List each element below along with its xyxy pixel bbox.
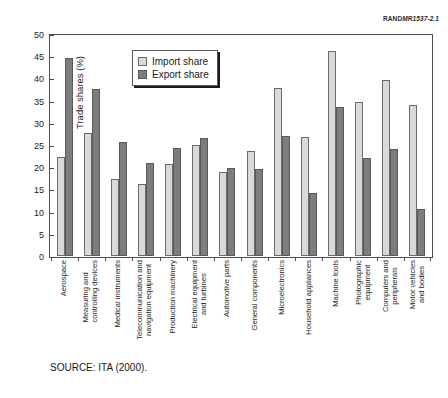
x-axis-label-slot: General components xyxy=(241,260,268,360)
x-axis-label-line: and turbines xyxy=(200,260,209,328)
bar[interactable] xyxy=(255,169,263,256)
legend-item[interactable]: Import share xyxy=(138,55,209,68)
figure-number: RANDMR1537-2.1 xyxy=(383,15,439,22)
bar-group xyxy=(214,36,241,256)
source-note: SOURCE: ITA (2000). xyxy=(50,362,147,373)
x-axis-label-line: Aerospace xyxy=(58,260,67,296)
bar[interactable] xyxy=(328,51,336,256)
bar[interactable] xyxy=(192,145,200,256)
x-axis-label: Household appliances xyxy=(305,260,314,335)
legend-item[interactable]: Export share xyxy=(138,68,209,81)
legend-swatch-import xyxy=(138,57,147,66)
y-axis-tick-label: 25 xyxy=(24,142,44,150)
bar[interactable] xyxy=(301,137,309,256)
bar-group xyxy=(377,36,404,256)
bar[interactable] xyxy=(173,148,181,256)
bar[interactable] xyxy=(119,142,127,256)
x-axis-label: Photographicequipment xyxy=(355,260,372,305)
x-axis-label: Aerospace xyxy=(59,260,68,296)
bar[interactable] xyxy=(355,102,363,256)
bar[interactable] xyxy=(165,164,173,256)
bar[interactable] xyxy=(247,151,255,256)
y-axis-tick-label: 20 xyxy=(24,164,44,172)
y-axis-tick-label: 30 xyxy=(24,120,44,128)
bar[interactable] xyxy=(219,172,227,256)
x-axis-label-line: Machine tools xyxy=(331,260,340,307)
x-axis-label-slot: Machine tools xyxy=(323,260,350,360)
bar[interactable] xyxy=(65,58,73,256)
x-axis-label-slot: Automotive parts xyxy=(214,260,241,360)
bar-series-container xyxy=(51,36,431,256)
plot-area: Trade shares (%) 05101520253035404550 xyxy=(49,34,433,258)
bar[interactable] xyxy=(390,149,398,256)
x-axis-label-line: Household appliances xyxy=(304,260,313,335)
legend-label: Import share xyxy=(152,56,208,67)
x-axis-label-line: Electrical equipment xyxy=(190,260,199,328)
x-axis-label-line: Production machinery xyxy=(167,260,176,333)
x-axis-label-line: peripherals xyxy=(391,260,400,312)
y-axis-tick-label: 15 xyxy=(24,186,44,194)
x-axis-label-slot: Telecommunication andnavigation equipmen… xyxy=(132,260,159,360)
bar[interactable] xyxy=(336,107,344,256)
x-axis-label-slot: Motor vehiclesand bodies xyxy=(405,260,432,360)
x-axis-label: Microelectronics xyxy=(278,260,287,315)
y-axis-tick-label: 50 xyxy=(24,31,44,39)
x-axis-label-line: Computers and xyxy=(381,260,390,312)
x-axis-label: General components xyxy=(250,260,259,331)
bar[interactable] xyxy=(309,193,317,256)
bar[interactable] xyxy=(57,157,65,256)
bar[interactable] xyxy=(409,105,417,256)
x-axis-label-line: Photographic xyxy=(354,260,363,305)
y-axis-tick-label: 35 xyxy=(24,98,44,106)
bar[interactable] xyxy=(417,209,425,256)
x-axis-label: Computers andperipherals xyxy=(382,260,399,312)
bar-group xyxy=(78,36,105,256)
bar-group xyxy=(268,36,295,256)
x-axis-label: Motor vehiclesand bodies xyxy=(410,260,427,309)
figure-number-brand: RAND xyxy=(383,15,402,22)
legend-label: Export share xyxy=(152,69,209,80)
x-axis-label-line: navigation equipment xyxy=(145,260,154,340)
bar[interactable] xyxy=(363,158,371,256)
bar[interactable] xyxy=(146,163,154,256)
bar[interactable] xyxy=(274,88,282,256)
x-axis-label-line: and bodies xyxy=(418,260,427,309)
x-axis-label: Automotive parts xyxy=(223,260,232,317)
y-axis-tick-label: 10 xyxy=(24,209,44,217)
y-axis-tick-label: 0 xyxy=(24,253,44,261)
x-axis-label: Measuring andcontrolling devices xyxy=(82,260,99,322)
x-axis-label-slot: Photographicequipment xyxy=(350,260,377,360)
y-axis-tick-label: 5 xyxy=(24,231,44,239)
x-axis-label-slot: Medical instruments xyxy=(105,260,132,360)
bar-group xyxy=(295,36,322,256)
bar[interactable] xyxy=(200,138,208,256)
x-axis-label-slot: Measuring andcontrolling devices xyxy=(77,260,104,360)
x-axis-label-line: Medical instruments xyxy=(113,260,122,328)
x-axis-label-slot: Household appliances xyxy=(296,260,323,360)
bar[interactable] xyxy=(382,80,390,256)
x-axis-label-slot: Electrical equipmentand turbines xyxy=(186,260,213,360)
bar[interactable] xyxy=(227,168,235,256)
chart-legend: Import shareExport share xyxy=(132,50,218,86)
bar-group xyxy=(404,36,431,256)
x-axis-label-line: controlling devices xyxy=(91,260,100,322)
bar-group xyxy=(105,36,132,256)
bar[interactable] xyxy=(111,179,119,256)
figure-number-code: MR1537-2.1 xyxy=(402,15,439,22)
bar[interactable] xyxy=(84,133,92,256)
bar[interactable] xyxy=(92,89,100,256)
figure-container: RANDMR1537-2.1 Trade shares (%) 05101520… xyxy=(0,0,448,398)
x-axis-label-slot: Computers andperipherals xyxy=(377,260,404,360)
x-axis-label-line: equipment xyxy=(364,260,373,305)
x-axis-label-slot: Production machinery xyxy=(159,260,186,360)
x-axis-label-line: Motor vehicles xyxy=(409,260,418,309)
bar[interactable] xyxy=(282,136,290,256)
x-axis-labels: AerospaceMeasuring andcontrolling device… xyxy=(50,260,432,360)
x-axis-label: Telecommunication andnavigation equipmen… xyxy=(137,260,154,340)
x-axis-label: Electrical equipmentand turbines xyxy=(191,260,208,328)
bar-group xyxy=(51,36,78,256)
x-axis-label-line: General components xyxy=(249,260,258,331)
x-axis-label-slot: Aerospace xyxy=(50,260,77,360)
bar[interactable] xyxy=(138,184,146,256)
bar-group xyxy=(350,36,377,256)
